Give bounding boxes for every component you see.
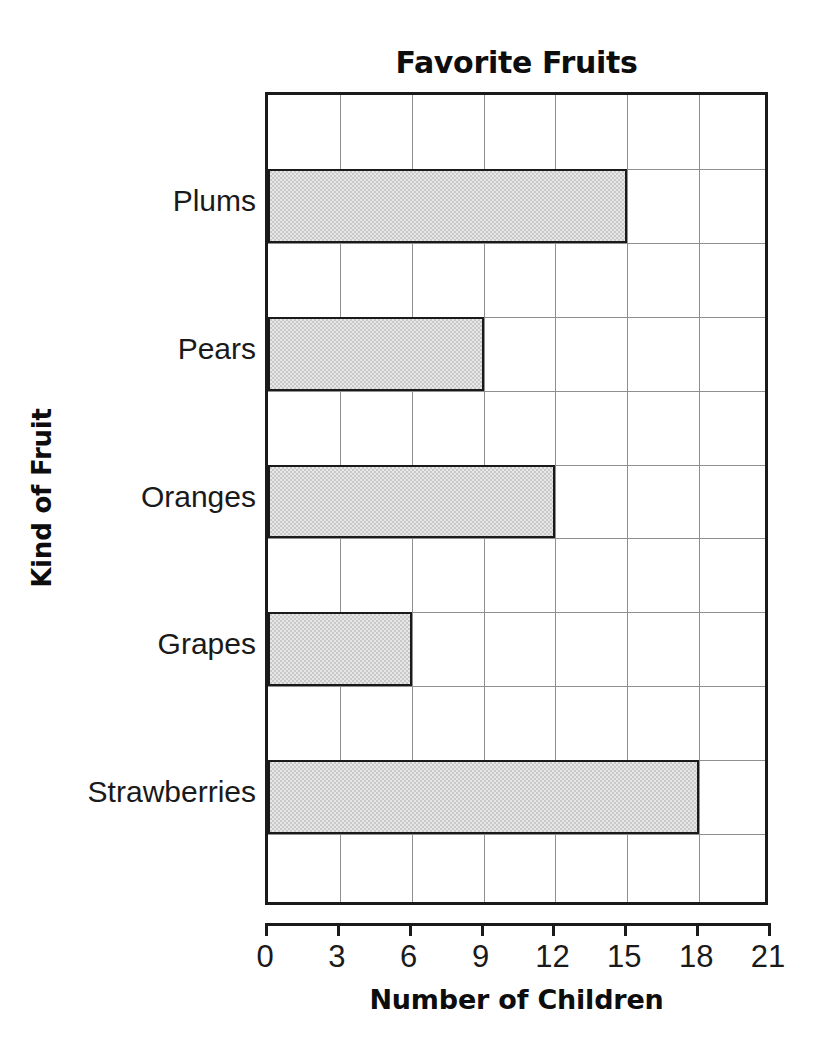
bar: [268, 317, 484, 391]
x-axis-tick-mark: [265, 923, 268, 936]
x-axis-tick-label: 21: [738, 939, 798, 975]
x-axis-tick-mark: [552, 923, 555, 936]
x-axis-tick-mark: [768, 923, 771, 936]
bar: [268, 612, 412, 686]
x-axis-tick-mark: [696, 923, 699, 936]
y-axis-tick-label: Oranges: [141, 480, 256, 514]
y-axis-title: Kind of Fruit: [27, 378, 57, 618]
y-axis-tick-label: Grapes: [158, 627, 256, 661]
x-axis-tick-label: 3: [307, 939, 367, 975]
y-axis-tick-label-group: PlumsPearsOrangesGrapesStrawberries: [60, 92, 256, 905]
x-axis-tick-mark: [481, 923, 484, 936]
x-axis-tick-label: 0: [235, 939, 295, 975]
bar: [268, 465, 555, 539]
bar: [268, 169, 627, 243]
y-axis-tick-label: Plums: [173, 184, 256, 218]
y-axis-tick-label: Pears: [178, 332, 256, 366]
x-axis-tick-label: 9: [451, 939, 511, 975]
x-axis-tick-label: 15: [594, 939, 654, 975]
x-axis-tick-label: 6: [379, 939, 439, 975]
x-axis-tick-mark: [409, 923, 412, 936]
x-axis-title: Number of Children: [265, 984, 768, 1015]
chart-title: Favorite Fruits: [265, 45, 768, 80]
x-axis-tick-label: 18: [666, 939, 726, 975]
bar-chart-figure: Favorite Fruits Kind of Fruit PlumsPears…: [0, 0, 825, 1059]
bar: [268, 760, 699, 834]
x-axis-tick-mark: [337, 923, 340, 936]
x-axis-line: [265, 923, 768, 926]
y-axis-tick-label: Strawberries: [88, 775, 256, 809]
plot-area: [265, 92, 768, 905]
x-axis-tick-mark: [624, 923, 627, 936]
bars-layer: [268, 95, 765, 902]
x-axis-tick-label: 12: [522, 939, 582, 975]
